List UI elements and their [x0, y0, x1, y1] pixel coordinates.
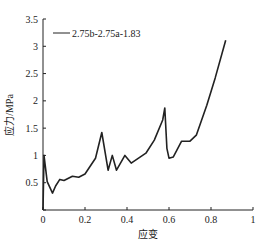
x-tick-label: 0.8 [205, 214, 218, 225]
axes [43, 19, 253, 210]
y-axis-label: 应力/MPa [3, 94, 15, 136]
legend: 2.75b-2.75a-1.83 [53, 28, 141, 39]
y-tick-label: 1 [33, 150, 38, 161]
y-tick-label: 1.5 [26, 123, 39, 134]
legend-label: 2.75b-2.75a-1.83 [72, 28, 141, 39]
series-line [43, 40, 226, 210]
y-tick-label: 3.5 [26, 14, 39, 25]
x-tick-label: 0.2 [79, 214, 92, 225]
x-tick-label: 1 [251, 214, 256, 225]
chart: 00.20.40.60.810.511.522.533.5 应变 应力/MPa … [0, 0, 266, 246]
x-tick-label: 0 [41, 214, 46, 225]
y-tick-label: 3 [33, 41, 38, 52]
x-tick-label: 0.6 [163, 214, 176, 225]
y-tick-label: 0.5 [26, 177, 39, 188]
y-tick-label: 2 [33, 95, 38, 106]
tick-labels: 00.20.40.60.810.511.522.533.5 [26, 14, 256, 226]
x-tick-label: 0.4 [121, 214, 134, 225]
y-tick-label: 2.5 [26, 68, 39, 79]
x-axis-label: 应变 [138, 228, 158, 240]
